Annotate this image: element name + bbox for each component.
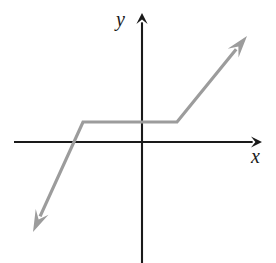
function-curve-path bbox=[40, 49, 236, 216]
x-axis-label: x bbox=[251, 146, 260, 166]
math-graph-figure: y x bbox=[0, 0, 276, 263]
function-curve bbox=[33, 36, 247, 232]
y-axis bbox=[136, 13, 147, 263]
x-axis bbox=[14, 136, 262, 147]
graph-canvas bbox=[0, 0, 276, 263]
y-axis-label: y bbox=[116, 9, 125, 29]
